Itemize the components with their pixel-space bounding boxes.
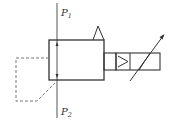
- adjustable-arrow-icon: [130, 36, 163, 81]
- label-p2: P2: [60, 106, 72, 119]
- adjustable-arrowhead: [160, 34, 165, 40]
- arrow-down-icon: [56, 74, 59, 78]
- valve-diagram: P1 P2: [0, 0, 172, 125]
- chevron-right-icon: [118, 56, 128, 67]
- arrow-up-icon: [56, 42, 59, 46]
- label-p1: P1: [60, 7, 72, 20]
- solenoid-stem: [104, 53, 116, 70]
- solenoid-body: [116, 53, 160, 70]
- drain-triangle: [93, 26, 104, 40]
